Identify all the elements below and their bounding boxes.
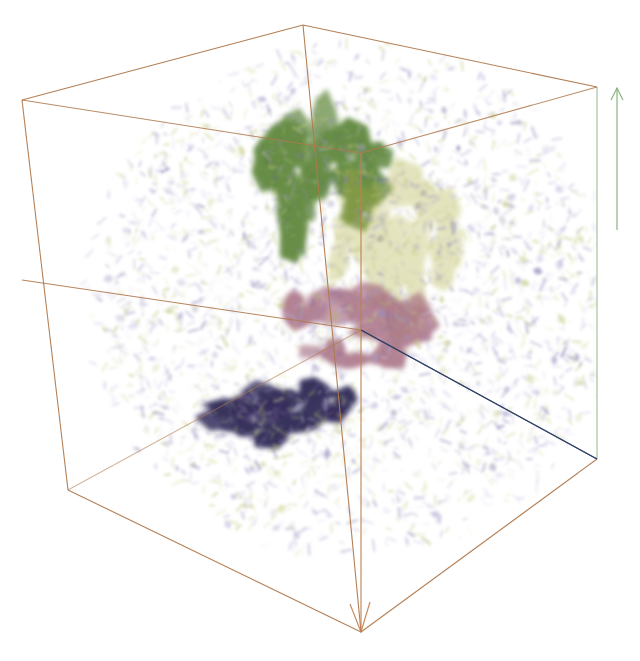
3d-scene-svg [0, 0, 640, 661]
visualization-canvas [0, 0, 640, 661]
